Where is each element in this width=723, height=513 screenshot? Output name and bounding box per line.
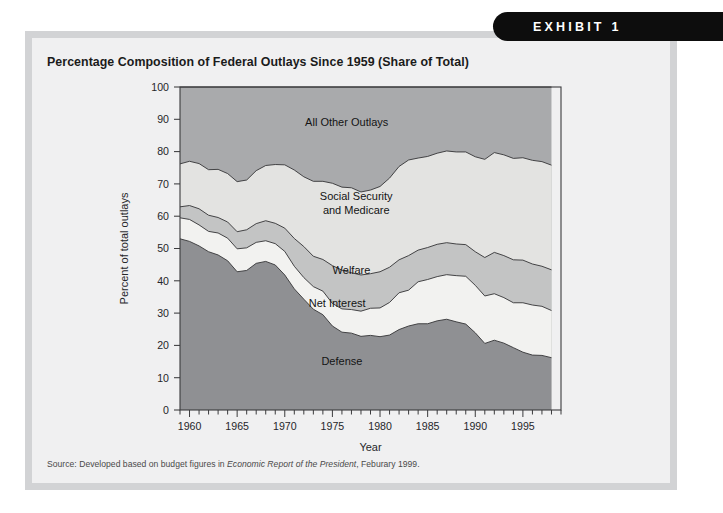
y-axis-tick-label: 70 bbox=[157, 178, 169, 190]
y-axis-tick-label: 0 bbox=[163, 404, 169, 416]
source-suffix: , Feburary 1999. bbox=[356, 459, 419, 469]
series-label: Net Interest bbox=[309, 297, 366, 309]
series-label: Welfare bbox=[333, 264, 371, 276]
x-axis-tick-label: 1990 bbox=[463, 420, 487, 432]
y-axis-tick-label: 90 bbox=[157, 113, 169, 125]
source-italic-title: Economic Report of the President bbox=[227, 459, 356, 469]
x-axis-tick-label: 1970 bbox=[273, 420, 297, 432]
y-axis-tick-label: 30 bbox=[157, 307, 169, 319]
exhibit-badge: EXHIBIT 1 bbox=[493, 12, 723, 41]
x-axis-title: Year bbox=[359, 441, 382, 453]
y-axis-tick-label: 40 bbox=[157, 275, 169, 287]
chart-area: 0102030405060708090100Percent of total o… bbox=[32, 38, 670, 483]
y-axis-tick-label: 80 bbox=[157, 145, 169, 157]
y-axis-tick-label: 100 bbox=[151, 81, 169, 93]
series-label: Defense bbox=[321, 355, 362, 367]
y-axis-tick-label: 60 bbox=[157, 210, 169, 222]
x-axis-tick-label: 1985 bbox=[416, 420, 440, 432]
source-note: Source: Developed based on budget figure… bbox=[47, 459, 420, 469]
x-axis-tick-label: 1995 bbox=[511, 420, 535, 432]
exhibit-frame: Percentage Composition of Federal Outlay… bbox=[25, 31, 677, 490]
y-axis-tick-label: 20 bbox=[157, 339, 169, 351]
source-prefix: Source: Developed based on budget figure… bbox=[47, 459, 227, 469]
exhibit-panel: Percentage Composition of Federal Outlay… bbox=[32, 38, 670, 483]
series-label: and Medicare bbox=[323, 204, 390, 216]
exhibit-badge-label: EXHIBIT 1 bbox=[533, 20, 622, 34]
y-axis-tick-label: 10 bbox=[157, 372, 169, 384]
series-label: Social Security bbox=[320, 190, 393, 202]
x-axis-tick-label: 1960 bbox=[178, 420, 202, 432]
stacked-area-chart: 0102030405060708090100Percent of total o… bbox=[32, 38, 670, 483]
y-axis-tick-label: 50 bbox=[157, 242, 169, 254]
series-label: All Other Outlays bbox=[305, 116, 389, 128]
x-axis-tick-label: 1975 bbox=[321, 420, 345, 432]
x-axis-tick-label: 1980 bbox=[368, 420, 392, 432]
y-axis-title: Percent of total outlays bbox=[118, 192, 130, 304]
x-axis-tick-label: 1965 bbox=[225, 420, 249, 432]
